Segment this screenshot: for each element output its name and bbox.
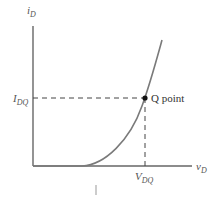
x-axis-label: vD (196, 160, 207, 175)
characteristic-curve (33, 40, 162, 166)
q-point-label: Q point (151, 92, 184, 104)
q-point-marker (142, 95, 147, 100)
idq-label: IDQ (12, 92, 28, 107)
y-axis-label: iD (27, 4, 36, 19)
vdq-label: VDQ (135, 170, 154, 185)
transfer-characteristic-diagram: iD vD IDQ VDQ Q point (0, 0, 216, 204)
